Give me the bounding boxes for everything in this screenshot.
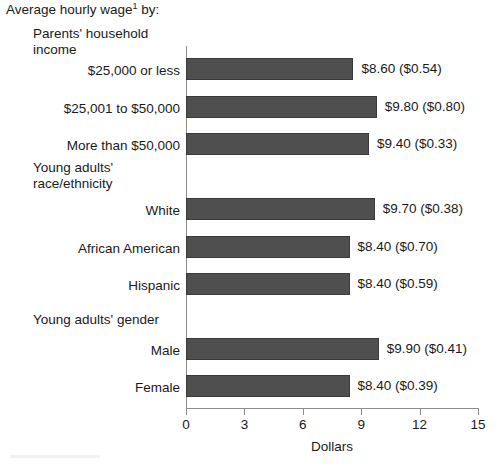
group-heading-young-adults-race-ethnicity: Young adults' race/ethnicity: [33, 160, 113, 192]
x-axis-tick: [244, 408, 245, 415]
bar-value-label: $9.70 ($0.38): [383, 201, 463, 217]
category-label: More than $50,000: [0, 138, 180, 154]
x-axis-tick-label: 3: [229, 417, 259, 433]
bar-value-label: $9.90 ($0.41): [387, 341, 467, 357]
category-label: Female: [0, 380, 180, 396]
x-axis-title: Dollars: [186, 439, 478, 455]
x-axis-line: [186, 408, 478, 409]
category-label: White: [0, 203, 180, 219]
category-label: African American: [0, 241, 180, 257]
chart-container: Average hourly wage1 by: Parents' househ…: [0, 0, 497, 469]
x-axis-tick-label: 0: [171, 417, 201, 433]
chart-title: Average hourly wage1 by:: [6, 2, 159, 18]
bar: [186, 273, 350, 295]
group-heading-young-adults-gender: Young adults' gender: [33, 312, 159, 328]
group-heading-parents-household-income: Parents' household income: [33, 26, 148, 58]
bar-value-label: $8.60 ($0.54): [361, 61, 441, 77]
x-axis-tick: [361, 408, 362, 415]
bar-value-label: $9.40 ($0.33): [377, 136, 457, 152]
category-label: Hispanic: [0, 278, 180, 294]
category-label: $25,001 to $50,000: [0, 101, 180, 117]
x-axis-tick-label: 6: [288, 417, 318, 433]
bar-value-label: $8.40 ($0.70): [358, 239, 438, 255]
category-label: Male: [0, 343, 180, 359]
page-artifact: [10, 455, 100, 458]
bar: [186, 338, 379, 360]
x-axis-tick: [186, 408, 187, 415]
x-axis-tick-label: 15: [463, 417, 493, 433]
bar: [186, 236, 350, 258]
bar: [186, 58, 353, 80]
bar: [186, 133, 369, 155]
x-axis-tick: [478, 408, 479, 415]
bar-value-label: $8.40 ($0.59): [358, 276, 438, 292]
category-label: $25,000 or less: [0, 63, 180, 79]
bar: [186, 96, 377, 118]
bar: [186, 375, 350, 397]
bar-value-label: $9.80 ($0.80): [385, 99, 465, 115]
bar: [186, 198, 375, 220]
x-axis-tick: [420, 408, 421, 415]
x-axis-tick-label: 12: [405, 417, 435, 433]
chart-title-text: Average hourly wage: [6, 2, 133, 17]
x-axis-tick-label: 9: [346, 417, 376, 433]
bar-value-label: $8.40 ($0.39): [358, 378, 438, 394]
chart-title-suffix: by:: [138, 2, 160, 17]
x-axis-tick: [303, 408, 304, 415]
plot-area: $8.60 ($0.54) $9.80 ($0.80) $9.40 ($0.33…: [186, 46, 478, 408]
